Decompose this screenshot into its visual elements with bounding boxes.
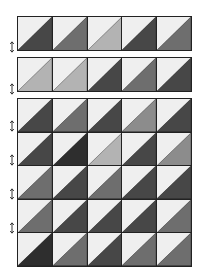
half-square-triangle-icon bbox=[88, 17, 122, 50]
half-square-triangle-icon bbox=[53, 133, 87, 166]
quilt-tile bbox=[53, 17, 87, 50]
quilt-tile bbox=[122, 133, 156, 166]
half-square-triangle-icon bbox=[18, 58, 52, 91]
quilt-tile bbox=[18, 58, 52, 91]
quilt-tile bbox=[88, 99, 122, 132]
half-square-triangle-icon bbox=[18, 17, 52, 50]
half-square-triangle-icon bbox=[122, 99, 156, 132]
half-square-triangle-icon bbox=[18, 200, 52, 233]
half-square-triangle-icon bbox=[122, 233, 156, 266]
half-square-triangle-icon bbox=[18, 99, 52, 132]
quilt-tile bbox=[18, 17, 52, 50]
half-square-triangle-icon bbox=[157, 233, 191, 266]
half-square-triangle-icon bbox=[88, 233, 122, 266]
quilt-tile bbox=[157, 233, 191, 266]
quilt-tile bbox=[53, 200, 87, 233]
quilt-strip-2 bbox=[17, 57, 192, 92]
half-square-triangle-icon bbox=[88, 166, 122, 199]
half-square-triangle-icon bbox=[157, 17, 191, 50]
quilt-tile bbox=[53, 99, 87, 132]
half-square-triangle-icon bbox=[53, 166, 87, 199]
quilt-tile bbox=[122, 233, 156, 266]
half-square-triangle-icon bbox=[157, 58, 191, 91]
half-square-triangle-icon bbox=[88, 200, 122, 233]
quilt-tile bbox=[122, 58, 156, 91]
quilt-tile bbox=[157, 166, 191, 199]
quilt-tile bbox=[18, 166, 52, 199]
half-square-triangle-icon bbox=[157, 99, 191, 132]
quilt-tile bbox=[88, 133, 122, 166]
quilt-tile bbox=[53, 133, 87, 166]
half-square-triangle-icon bbox=[157, 200, 191, 233]
quilt-strip-1 bbox=[17, 16, 192, 51]
quilt-tile bbox=[88, 200, 122, 233]
half-square-triangle-icon bbox=[18, 166, 52, 199]
quilt-tile bbox=[157, 99, 191, 132]
double-arrow-icon bbox=[9, 154, 15, 166]
quilt-tile bbox=[18, 99, 52, 132]
half-square-triangle-icon bbox=[157, 133, 191, 166]
quilt-tile bbox=[88, 233, 122, 266]
quilt-tile bbox=[18, 233, 52, 266]
half-square-triangle-icon bbox=[18, 233, 52, 266]
quilt-tile bbox=[157, 200, 191, 233]
half-square-triangle-icon bbox=[53, 200, 87, 233]
half-square-triangle-icon bbox=[53, 233, 87, 266]
double-arrow-icon bbox=[9, 83, 15, 95]
half-square-triangle-icon bbox=[53, 58, 87, 91]
quilt-tile bbox=[53, 233, 87, 266]
half-square-triangle-icon bbox=[88, 99, 122, 132]
half-square-triangle-icon bbox=[53, 99, 87, 132]
quilt-tile bbox=[18, 200, 52, 233]
half-square-triangle-icon bbox=[122, 17, 156, 50]
quilt-tile bbox=[157, 133, 191, 166]
quilt-tile bbox=[53, 58, 87, 91]
quilt-tile bbox=[53, 166, 87, 199]
half-square-triangle-icon bbox=[157, 166, 191, 199]
quilt-tile bbox=[88, 58, 122, 91]
half-square-triangle-icon bbox=[53, 17, 87, 50]
quilt-tile bbox=[122, 17, 156, 50]
half-square-triangle-icon bbox=[18, 133, 52, 166]
half-square-triangle-icon bbox=[88, 133, 122, 166]
half-square-triangle-icon bbox=[122, 133, 156, 166]
quilt-tile bbox=[122, 166, 156, 199]
half-square-triangle-icon bbox=[122, 166, 156, 199]
quilt-tile bbox=[122, 200, 156, 233]
half-square-triangle-icon bbox=[122, 200, 156, 233]
quilt-tile bbox=[122, 99, 156, 132]
quilt-main-block bbox=[17, 98, 192, 267]
quilt-tile bbox=[88, 17, 122, 50]
double-arrow-icon bbox=[9, 222, 15, 234]
double-arrow-icon bbox=[9, 41, 15, 53]
half-square-triangle-icon bbox=[122, 58, 156, 91]
quilt-tile bbox=[157, 58, 191, 91]
quilt-tile bbox=[88, 166, 122, 199]
double-arrow-icon bbox=[9, 120, 15, 132]
double-arrow-icon bbox=[9, 188, 15, 200]
quilt-tile bbox=[157, 17, 191, 50]
quilt-tile bbox=[18, 133, 52, 166]
half-square-triangle-icon bbox=[88, 58, 122, 91]
